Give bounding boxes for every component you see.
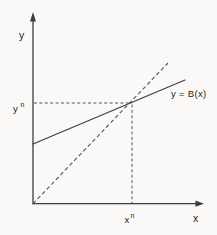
fixed-point-x-label: x: [125, 214, 130, 225]
fixed-point-y-superscript: n: [21, 101, 25, 108]
diagonal-45-line: [33, 63, 168, 204]
x-axis-arrowhead-icon: [196, 201, 205, 207]
fixed-point-x-superscript: n: [131, 212, 135, 219]
x-axis-label: x: [193, 212, 199, 224]
function-line: [33, 80, 185, 144]
function-label: y = B(x): [171, 88, 206, 99]
y-axis-arrowhead-icon: [30, 12, 36, 22]
y-axis-label: y: [19, 29, 25, 41]
fixed-point-y-label: y: [13, 103, 18, 114]
function-diagram: y x y = B(x) y n x n: [0, 0, 217, 235]
diagram-canvas: y x y = B(x) y n x n: [0, 0, 217, 235]
